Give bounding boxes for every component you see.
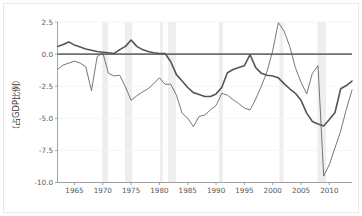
x-tick-label: 2005	[292, 186, 310, 195]
x-tick-label: 1990	[207, 186, 226, 195]
y-tick-label: 2.5	[42, 18, 53, 27]
thick-series	[58, 40, 353, 126]
tick-labels-group: 2.50.0-2.5-5.0-7.5-10.019651970197519801…	[34, 18, 339, 195]
y-tick-label: -10.0	[34, 178, 53, 187]
thin-series	[58, 23, 353, 176]
x-tick-label: 2000	[264, 186, 283, 195]
data-series-group	[58, 23, 353, 176]
chart-figure: （占GDP比例） 2.50.0-2.5-5.0-7.5-10.019651970…	[0, 0, 362, 216]
x-tick-label: 1980	[150, 186, 169, 195]
x-tick-label: 2010	[320, 186, 339, 195]
recession-2008	[317, 22, 325, 183]
recession-1990	[219, 22, 223, 183]
recession-1980	[160, 22, 163, 183]
recession-1970	[102, 22, 108, 183]
y-tick-label: -5.0	[39, 114, 53, 123]
axes-group	[58, 22, 353, 183]
gridlines-group	[58, 22, 353, 183]
x-tick-label: 1985	[179, 186, 197, 195]
recession-1981	[168, 22, 176, 183]
recession-2001	[280, 22, 284, 183]
y-tick-label: -7.5	[39, 146, 53, 155]
y-tick-label: 0.0	[42, 50, 54, 59]
x-tick-label: 1975	[122, 186, 140, 195]
x-tick-label: 1965	[65, 186, 83, 195]
plot-area: 2.50.0-2.5-5.0-7.5-10.019651970197519801…	[0, 0, 362, 216]
y-tick-label: -2.5	[39, 82, 53, 91]
x-tick-label: 1970	[94, 186, 113, 195]
x-tick-label: 1995	[235, 186, 253, 195]
